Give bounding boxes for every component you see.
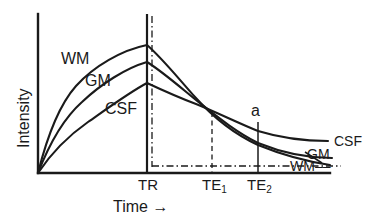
tick-label-te1-text: TE bbox=[202, 176, 221, 193]
tick-label-tr: TR bbox=[138, 177, 158, 192]
tick-label-te2-text: TE bbox=[247, 176, 266, 193]
tick-label-te1-sub: 1 bbox=[221, 184, 227, 195]
gm-curve-label: GM bbox=[85, 73, 111, 89]
tick-label-te2-sub: 2 bbox=[266, 184, 272, 195]
csf-right-label: CSF bbox=[334, 134, 362, 148]
signal-intensity-figure: Intensity Time → WM GM CSF CSF GM WM–– a… bbox=[0, 0, 373, 222]
x-axis-title: Time → bbox=[113, 199, 168, 215]
csf-curve bbox=[38, 83, 328, 173]
tick-label-tr-text: TR bbox=[138, 176, 158, 193]
plot-canvas bbox=[0, 0, 373, 222]
wm-right-label: WM–– bbox=[290, 159, 330, 173]
tick-label-te2: TE2 bbox=[247, 177, 272, 192]
y-axis-title: Intensity bbox=[16, 88, 32, 148]
tick-label-te1: TE1 bbox=[202, 177, 227, 192]
csf-curve-label: CSF bbox=[105, 101, 137, 117]
amplitude-marker-label: a bbox=[251, 103, 260, 119]
wm-curve-label: WM bbox=[61, 51, 89, 67]
